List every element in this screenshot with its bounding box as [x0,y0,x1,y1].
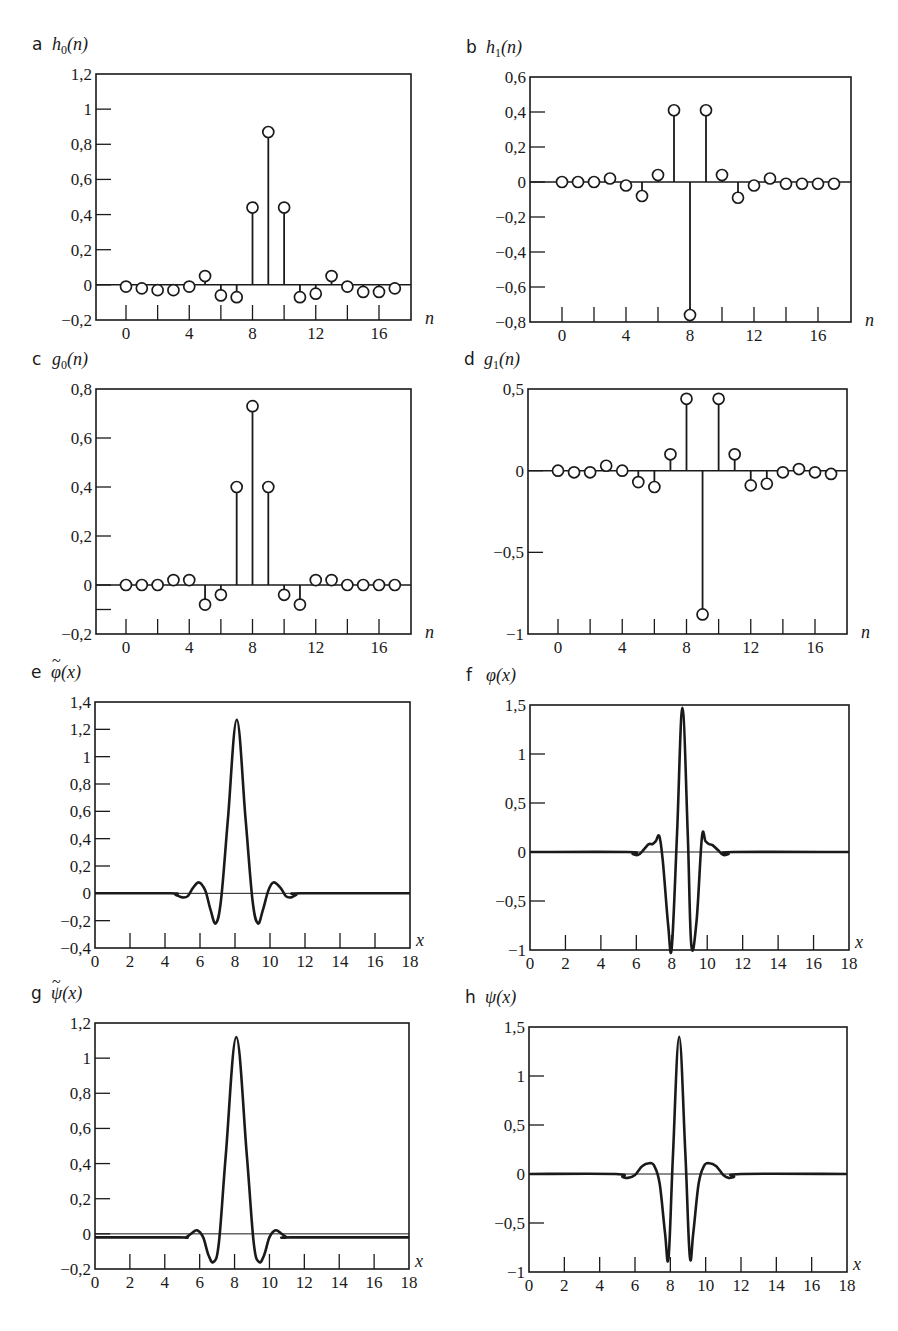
x-tick-label: 14 [770,954,788,973]
stem-marker [733,192,744,203]
stem-marker [200,599,211,610]
x-tick-label: 8 [230,1273,239,1292]
x-tick-label: 8 [248,638,257,657]
x-tick-label: 2 [126,952,135,971]
x-tick-label: 4 [185,638,194,657]
x-tick-label: 8 [666,1276,675,1295]
x-tick-label: 18 [839,1276,856,1295]
y-tick-label: −0,2 [60,1260,91,1279]
y-tick-label: 0 [83,1225,92,1244]
y-tick-label: −0,2 [495,208,526,227]
y-tick-label: 1 [84,100,93,119]
stem-marker [374,286,385,297]
stem-marker [215,290,226,301]
y-tick-label: 0,8 [70,775,91,794]
x-tick-label: 6 [195,1273,204,1292]
x-tick-label: 18 [401,1273,418,1292]
x-tick-label: 16 [803,1276,820,1295]
stem-marker [777,467,788,478]
y-axis-label: φ(x) [486,665,516,686]
x-tick-label: 16 [807,638,824,657]
stem-marker [294,292,305,303]
stem-marker [713,393,724,404]
x-axis-label: x [852,1254,861,1274]
curve-series [95,720,410,924]
stem-marker [200,271,211,282]
y-tick-label: 1,5 [504,1018,525,1037]
x-tick-label: 4 [597,954,606,973]
y-tick-label: 0 [83,884,92,903]
stem-marker [263,482,274,493]
stem-marker [729,449,740,460]
x-tick-label: 14 [332,952,350,971]
panel-letter: b [466,37,477,57]
stem-marker [810,467,821,478]
stem-marker [136,283,147,294]
y-tick-label: 0 [84,576,93,595]
x-tick-label: 10 [699,954,716,973]
stem-marker [669,105,680,116]
stem-series [121,126,401,302]
stem-marker [633,477,644,488]
y-tick-label: −0,4 [495,243,526,262]
y-axis-label: h1(n) [486,37,522,60]
stem-marker [826,468,837,479]
stem-marker [231,292,242,303]
x-tick-label: 0 [526,954,535,973]
stem-marker [717,170,728,181]
stem-marker [152,285,163,296]
x-tick-label: 12 [733,1276,750,1295]
y-tick-label: 0,2 [70,857,91,876]
x-tick-label: 12 [296,1273,313,1292]
stem-marker [168,575,179,586]
x-tick-label: 8 [682,638,691,657]
stem-marker [553,465,564,476]
stem-marker [342,281,353,292]
x-axis-label: n [425,308,434,328]
x-tick-label: 6 [631,1276,640,1295]
stem-marker [358,580,369,591]
chart-panel-b: bh1(n)−0,8−0,6−0,4−0,200,20,40,60481216n [466,37,874,345]
y-tick-label: 1 [517,1067,526,1086]
stem-marker [184,575,195,586]
y-tick-label: 0,2 [70,1190,91,1209]
stem-marker [168,285,179,296]
stem-marker [813,178,824,189]
chart-panel-d: dg1(n)−1−0,500,50481216n [464,349,870,657]
stem-marker [653,170,664,181]
y-tick-label: −0,5 [494,1214,525,1233]
x-tick-label: 16 [805,954,822,973]
stem-marker [569,467,580,478]
x-tick-label: 4 [622,326,631,345]
chart-panel-h: hψ(x)−1−0,500,511,5024681012141618x [465,987,861,1295]
y-tick-label: 0,2 [505,138,526,157]
tilde-mark: ~ [52,652,61,669]
x-tick-label: 0 [554,638,563,657]
stem-marker [701,105,712,116]
stem-marker [231,482,242,493]
y-tick-label: −1 [508,941,526,960]
stem-marker [184,281,195,292]
x-tick-label: 4 [161,952,170,971]
stem-marker [121,281,132,292]
stem-marker [215,589,226,600]
stem-marker [374,580,385,591]
x-tick-label: 10 [261,1273,278,1292]
y-tick-label: 1 [83,748,92,767]
y-tick-label: 0,4 [71,478,93,497]
stem-marker [294,599,305,610]
stem-marker [797,178,808,189]
y-tick-label: 0 [516,462,525,481]
stem-marker [389,580,400,591]
stem-marker [358,286,369,297]
y-tick-label: −1 [507,1263,525,1282]
y-tick-label: 0,5 [504,1116,525,1135]
x-tick-label: 0 [91,1273,100,1292]
y-tick-label: 0,8 [71,135,92,154]
stem-marker [697,609,708,620]
x-tick-label: 4 [185,324,194,343]
x-axis-label: n [425,622,434,642]
panel-letter: h [465,987,476,1007]
y-tick-label: 1 [518,745,527,764]
curve-series [530,708,849,953]
